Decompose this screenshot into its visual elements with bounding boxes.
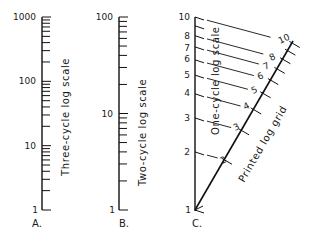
- panel-b-axis-title: Two-cycle log scale: [137, 79, 148, 187]
- panel-c-one-cycle-projection: 10 8 7 6 5 4 3 2 1 2 3 4 5 6 7 8 10 One-…: [179, 12, 300, 229]
- panel-a-label-100: 100: [19, 76, 36, 86]
- panel-b-label-1: 1: [109, 205, 115, 215]
- panel-c-dlabel-3: 3: [232, 121, 241, 132]
- panel-c-dlabel-6: 6: [256, 70, 266, 82]
- panel-c-dlabel-5: 5: [250, 84, 259, 95]
- vertical-tick-mark: [195, 118, 204, 121]
- panel-c-caption: C.: [192, 218, 202, 229]
- panel-a-label-1: 1: [32, 205, 38, 215]
- panel-c-vlabel-1: 1: [185, 205, 191, 215]
- panel-c-dlabel-7: 7: [262, 60, 271, 71]
- vertical-tick-mark: [195, 17, 204, 20]
- panel-c-vlabel-6: 6: [184, 54, 190, 64]
- vertical-tick-mark: [195, 26, 204, 29]
- vertical-tick-mark: [195, 75, 204, 78]
- vertical-tick-mark: [195, 94, 204, 97]
- vertical-tick-mark: [195, 152, 204, 155]
- panel-b-ticks: [119, 17, 128, 210]
- panel-c-diagonal-axis-title: Printed log grid: [236, 104, 289, 184]
- panel-c-dlabel-8: 8: [268, 51, 278, 63]
- panel-c-vlabel-10: 10: [179, 12, 191, 22]
- panel-b-two-cycle-scale: 100 10 1 Two-cycle log scale B.: [96, 12, 148, 229]
- panel-c-dlabel-10: 10: [277, 32, 292, 46]
- panel-a-axis-title: Three-cycle log scale: [60, 58, 71, 177]
- panel-b-label-100: 100: [96, 12, 113, 22]
- vertical-tick-mark: [195, 36, 204, 39]
- panel-a-caption: A.: [32, 218, 42, 229]
- panel-a-label-1000: 1000: [13, 12, 36, 22]
- projection-connector-line: [207, 155, 218, 158]
- panel-b-label-10: 10: [102, 109, 114, 119]
- panel-c-vlabel-2: 2: [184, 147, 190, 157]
- panel-c-vlabel-5: 5: [184, 70, 190, 80]
- panel-c-vertical-axis-title: One-cycle log scale: [210, 26, 221, 135]
- panel-c-vertical-labels: 10 8 7 6 5 4 3 2 1: [179, 12, 191, 215]
- panel-c-vlabel-4: 4: [184, 88, 190, 98]
- panel-c-vlabel-8: 8: [184, 31, 190, 41]
- vertical-tick-mark: [195, 47, 204, 50]
- vertical-tick-mark: [195, 210, 204, 213]
- panel-b-caption: B.: [119, 218, 129, 229]
- log-scale-diagram: 1000 100 10 1 Three-cycle log scale A. 1…: [0, 0, 318, 242]
- panel-a-ticks: [42, 17, 51, 210]
- panel-c-vlabel-3: 3: [184, 113, 190, 123]
- panel-c-dlabel-4: 4: [242, 100, 252, 112]
- panel-a-label-10: 10: [25, 141, 37, 151]
- panel-a-three-cycle-scale: 1000 100 10 1 Three-cycle log scale A.: [13, 12, 71, 229]
- panel-c-vlabel-7: 7: [184, 43, 190, 53]
- vertical-tick-mark: [195, 60, 204, 63]
